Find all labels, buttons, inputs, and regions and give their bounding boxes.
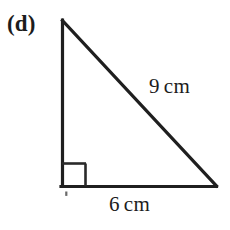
base-length-label: 6cm bbox=[109, 194, 150, 215]
figure-container: (d) 9cm 6cm bbox=[0, 0, 230, 230]
triangle-hypotenuse bbox=[63, 21, 217, 187]
stray-tick-mark bbox=[65, 192, 67, 196]
base-unit: cm bbox=[124, 192, 150, 216]
hypotenuse-value: 9 bbox=[149, 74, 160, 98]
part-label: (d) bbox=[7, 12, 36, 35]
hypotenuse-unit: cm bbox=[164, 74, 190, 98]
base-value: 6 bbox=[109, 192, 120, 216]
hypotenuse-length-label: 9cm bbox=[149, 76, 190, 97]
